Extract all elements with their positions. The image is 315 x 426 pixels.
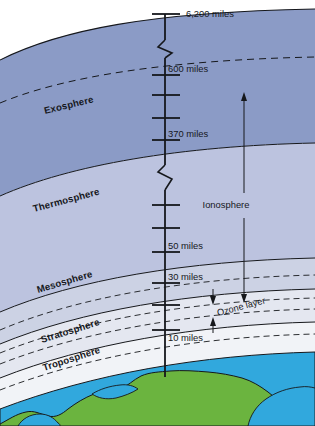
scale-label-6200: 6,200 miles	[186, 8, 234, 19]
scale-label-50: 50 miles	[168, 240, 203, 251]
diagram-canvas: Exosphere Thermosphere Mesosphere Strato…	[0, 0, 315, 426]
scale-label-600: 600 miles	[168, 63, 208, 74]
scale-label-370: 370 miles	[168, 128, 208, 139]
scale-label-10: 10 miles	[168, 332, 203, 343]
scale-label-30: 30 miles	[168, 271, 203, 282]
ionosphere-label: Ionosphere	[203, 199, 250, 210]
atmosphere-diagram: Exosphere Thermosphere Mesosphere Strato…	[0, 0, 315, 426]
